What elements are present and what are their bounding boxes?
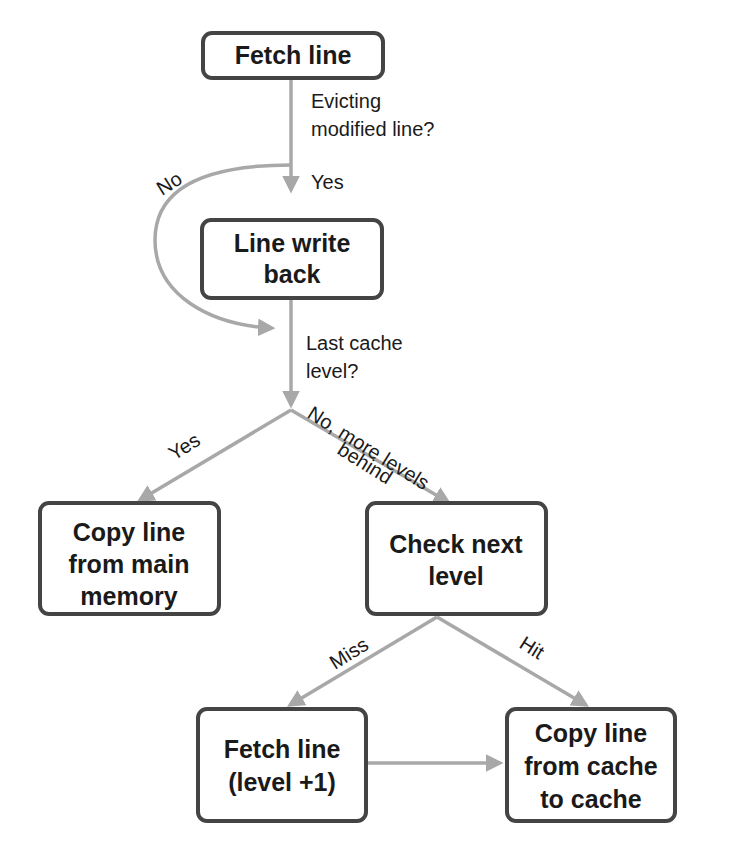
node-fetch-line-next-level: Fetch line (level +1)	[198, 709, 366, 821]
node-copy-cache-text-3: to cache	[540, 785, 642, 813]
node-copy-cache-text-2: from cache	[524, 752, 657, 780]
edge-yes-to-main-memory	[140, 410, 291, 500]
node-check-next-text-1: Check next	[389, 530, 523, 558]
node-fetch-line-text: Fetch line	[235, 41, 352, 69]
label-last-level-2: level?	[306, 360, 358, 382]
label-no-skip: No	[152, 167, 185, 199]
label-last-level-1: Last cache	[306, 332, 403, 354]
node-fetch-next-text-2: (level +1)	[228, 768, 336, 796]
label-yes-main: Yes	[164, 428, 203, 464]
node-copy-from-main-memory: Copy line from main memory	[40, 503, 219, 614]
label-evicting-2: modified line?	[311, 118, 434, 140]
edges	[140, 78, 586, 763]
node-copy-cache-text-1: Copy line	[535, 719, 648, 747]
node-line-write-back-text-1: Line write	[234, 229, 351, 257]
label-yes-writeback: Yes	[311, 171, 344, 193]
edge-hit	[437, 617, 586, 705]
node-line-write-back-text-2: back	[264, 260, 321, 288]
edge-miss	[290, 617, 437, 705]
label-no-more-levels-1: No, more levels	[304, 402, 433, 494]
node-fetch-next-text-1: Fetch line	[224, 735, 341, 763]
node-copy-main-text-1: Copy line	[73, 518, 186, 546]
cache-flowchart: Evicting modified line? Yes No Last cach…	[0, 0, 745, 847]
node-check-next-level: Check next level	[367, 503, 546, 614]
node-line-write-back: Line write back	[202, 220, 382, 298]
label-hit: Hit	[516, 632, 549, 664]
node-copy-main-text-3: memory	[80, 582, 177, 610]
node-copy-cache-to-cache: Copy line from cache to cache	[507, 709, 675, 821]
node-copy-main-text-2: from main	[69, 550, 190, 578]
node-check-next-text-2: level	[428, 562, 484, 590]
label-evicting-1: Evicting	[311, 90, 381, 112]
label-miss: Miss	[325, 633, 372, 673]
node-fetch-line: Fetch line	[203, 33, 383, 78]
